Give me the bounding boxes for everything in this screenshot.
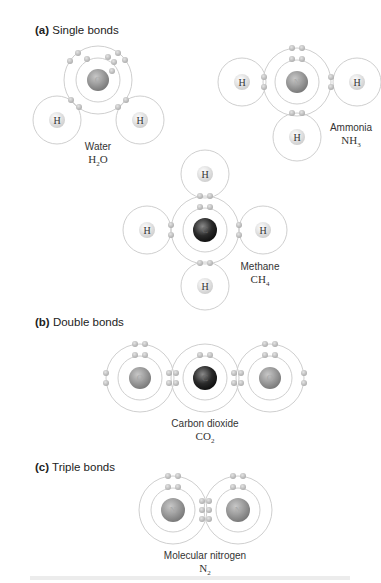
section-label: Double bonds <box>53 316 124 328</box>
svg-text:C: C <box>202 373 208 383</box>
ammonia-label: Ammonia NH3 <box>326 122 376 151</box>
svg-text:H: H <box>201 281 208 292</box>
svg-text:N: N <box>235 505 242 515</box>
svg-text:N: N <box>170 505 177 515</box>
hydrogen-letters: HH HHH HH HH <box>53 77 360 292</box>
molecule-name: Water <box>78 141 118 153</box>
water-label: Water H2O <box>78 141 118 170</box>
carbon-dioxide-label: Carbon dioxide CO2 <box>160 418 250 447</box>
svg-text:H: H <box>353 77 360 88</box>
section-prefix: (b) <box>35 316 50 328</box>
section-title-triple-bonds: (c) Triple bonds <box>35 461 115 473</box>
nitrogen-molecule <box>139 476 272 544</box>
covalent-bonds-diagram: O N C O C O N N HH HHH HH HH <box>0 0 381 583</box>
svg-text:H: H <box>259 225 266 236</box>
svg-text:O: O <box>137 373 144 383</box>
molecule-name: Ammonia <box>326 122 376 134</box>
molecule-formula: CH4 <box>235 273 285 290</box>
svg-text:H: H <box>238 77 245 88</box>
section-title-double-bonds: (b) Double bonds <box>35 316 124 328</box>
svg-text:H: H <box>136 115 143 126</box>
section-title-single-bonds: (a) Single bonds <box>35 24 119 36</box>
section-label: Single bonds <box>52 24 119 36</box>
water-molecule <box>33 46 164 144</box>
molecule-formula: NH3 <box>326 134 376 151</box>
section-prefix: (a) <box>35 24 49 36</box>
svg-text:H: H <box>201 169 208 180</box>
svg-text:H: H <box>53 115 60 126</box>
nuclei <box>49 69 365 522</box>
svg-text:H: H <box>143 225 150 236</box>
svg-text:H: H <box>293 132 300 143</box>
atom-letters: O N C O C O N N <box>95 75 301 515</box>
svg-text:O: O <box>267 373 274 383</box>
molecule-formula: CO2 <box>160 430 250 447</box>
molecule-name: Carbon dioxide <box>160 418 250 430</box>
molecule-name: Methane <box>235 261 285 273</box>
faded-caption <box>30 576 350 580</box>
nitrogen-label: Molecular nitrogen N2 <box>150 550 260 579</box>
svg-text:O: O <box>95 75 102 85</box>
molecule-formula: H2O <box>78 153 118 170</box>
svg-text:N: N <box>294 77 301 87</box>
molecule-name: Molecular nitrogen <box>150 550 260 562</box>
svg-text:C: C <box>202 225 208 235</box>
section-prefix: (c) <box>35 461 49 473</box>
section-label: Triple bonds <box>52 461 115 473</box>
methane-label: Methane CH4 <box>235 261 285 290</box>
